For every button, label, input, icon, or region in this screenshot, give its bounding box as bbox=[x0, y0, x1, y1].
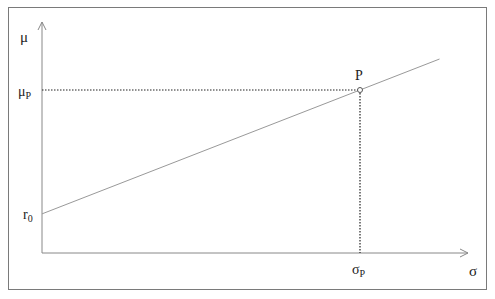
r0-label: r0 bbox=[23, 207, 33, 224]
x-axis-label: σ bbox=[469, 263, 477, 279]
mu-p-label-sub: P bbox=[26, 90, 32, 101]
diagram-canvas: μ σ μP r0 P σP bbox=[0, 0, 495, 299]
r0-label-sub: 0 bbox=[28, 213, 33, 224]
sigma-p-label-sub: P bbox=[360, 268, 366, 279]
point-p-label: P bbox=[355, 68, 363, 83]
point-p-marker bbox=[358, 88, 363, 93]
mu-p-label: μP bbox=[18, 84, 32, 101]
capital-market-line bbox=[42, 59, 440, 214]
sigma-p-label: σP bbox=[352, 262, 366, 279]
y-axis-label: μ bbox=[20, 29, 28, 45]
mu-p-label-main: μ bbox=[18, 84, 26, 99]
